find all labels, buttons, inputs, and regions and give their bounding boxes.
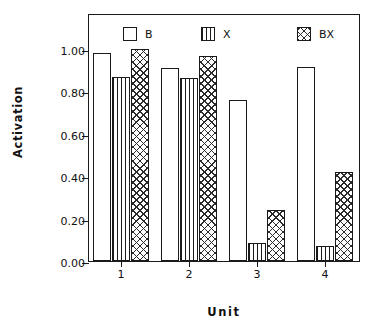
bar-b-unit-2 bbox=[161, 68, 179, 261]
x-axis-title: Unit bbox=[88, 305, 360, 319]
legend-swatch-vlines-icon bbox=[201, 27, 215, 41]
y-axis-tick-label: 1.00 bbox=[61, 46, 86, 57]
legend-swatch-crosshatch-icon bbox=[297, 27, 311, 41]
plot-frame: 0.000.200.400.600.801.00 1234 BXBX bbox=[88, 14, 360, 262]
legend-label: B bbox=[145, 29, 153, 40]
bar-x-unit-1 bbox=[112, 77, 130, 261]
legend-item-b[interactable]: B bbox=[123, 27, 153, 41]
x-axis-tick-label: 3 bbox=[254, 269, 261, 280]
bar-b-unit-1 bbox=[93, 53, 111, 261]
legend-label: X bbox=[223, 29, 231, 40]
y-axis-title: Activation bbox=[11, 67, 25, 177]
bar-bx-unit-2 bbox=[199, 56, 217, 261]
legend-swatch-empty-icon bbox=[123, 27, 137, 41]
x-axis-tick-label: 2 bbox=[186, 269, 193, 280]
y-axis-tick-label: 0.60 bbox=[61, 130, 86, 141]
plot-area: 0.000.200.400.600.801.00 1234 BXBX bbox=[89, 15, 359, 261]
x-axis-tick bbox=[325, 261, 326, 267]
chart-legend: BXBX bbox=[89, 21, 359, 47]
bar-bx-unit-3 bbox=[267, 210, 285, 261]
bar-x-unit-4 bbox=[316, 246, 334, 261]
bar-b-unit-4 bbox=[297, 67, 315, 261]
y-axis-tick-label: 0.00 bbox=[61, 258, 86, 269]
bar-x-unit-2 bbox=[180, 78, 198, 261]
y-axis-tick-label: 0.80 bbox=[61, 88, 86, 99]
x-axis-tick bbox=[257, 261, 258, 267]
bar-b-unit-3 bbox=[229, 100, 247, 261]
bar-bx-unit-1 bbox=[131, 49, 149, 261]
legend-item-bx[interactable]: BX bbox=[297, 27, 334, 41]
x-axis-tick bbox=[121, 261, 122, 267]
x-axis-tick-label: 1 bbox=[118, 269, 125, 280]
activation-bar-chart: Activation Unit 0.000.200.400.600.801.00… bbox=[0, 0, 376, 332]
y-axis-tick-label: 0.40 bbox=[61, 173, 86, 184]
legend-item-x[interactable]: X bbox=[201, 27, 231, 41]
x-axis-tick-label: 4 bbox=[322, 269, 329, 280]
bar-bx-unit-4 bbox=[335, 172, 353, 261]
legend-label: BX bbox=[319, 29, 334, 40]
y-axis-tick-label: 0.20 bbox=[61, 215, 86, 226]
bar-x-unit-3 bbox=[248, 243, 266, 261]
x-axis-tick bbox=[189, 261, 190, 267]
